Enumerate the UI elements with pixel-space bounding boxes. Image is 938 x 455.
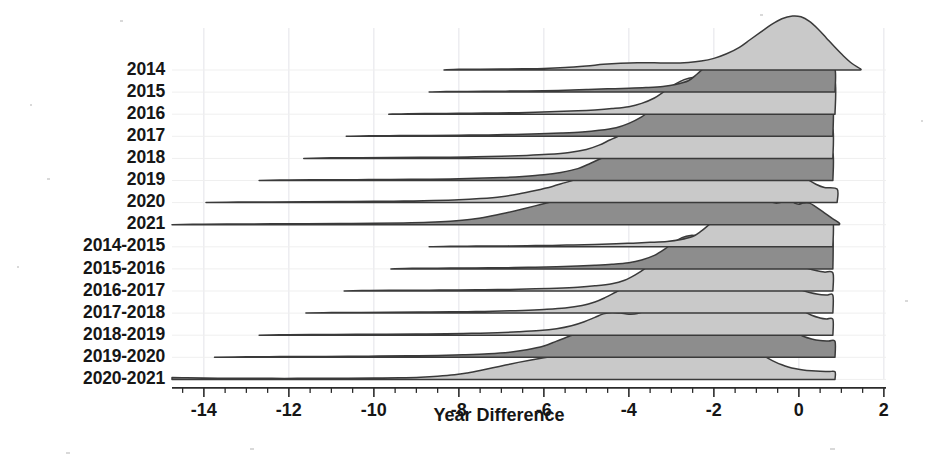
y-label-2018: 2018 <box>127 147 166 167</box>
y-label-2015-2016: 2015-2016 <box>83 258 165 278</box>
scan-speck <box>760 14 763 16</box>
scan-speck <box>921 120 923 122</box>
x-tick-label--4: -4 <box>621 400 637 420</box>
x-axis-title: Year Difference <box>433 405 564 425</box>
y-label-2016-2017: 2016-2017 <box>83 280 165 300</box>
scan-speck <box>120 20 123 22</box>
x-tick-label-2: 2 <box>879 400 889 420</box>
y-label-2014: 2014 <box>127 59 166 79</box>
ridgeline-chart-figure: 201420152016201720182019202020212014-201… <box>0 0 938 455</box>
scan-speck <box>250 448 254 450</box>
x-tick-label--12: -12 <box>276 400 302 420</box>
y-label-2014-2015: 2014-2015 <box>83 235 165 255</box>
y-label-2015: 2015 <box>127 81 166 101</box>
y-label-2017: 2017 <box>127 125 165 145</box>
y-label-2018-2019: 2018-2019 <box>83 324 165 344</box>
y-label-2019: 2019 <box>127 169 166 189</box>
y-label-2021: 2021 <box>127 213 166 233</box>
y-label-2020-2021: 2020-2021 <box>83 368 165 388</box>
scan-speck <box>830 448 835 450</box>
x-tick-label--2: -2 <box>706 400 722 420</box>
scan-speck <box>66 452 70 454</box>
scan-speck <box>47 178 50 180</box>
y-label-2020: 2020 <box>127 191 166 211</box>
scan-speck <box>30 104 32 106</box>
y-label-2017-2018: 2017-2018 <box>83 302 165 322</box>
scan-speck <box>905 300 908 302</box>
y-label-2019-2020: 2019-2020 <box>83 346 165 366</box>
x-tick-label--10: -10 <box>361 400 387 420</box>
x-tick-label-0: 0 <box>794 400 804 420</box>
ridgeline-plot-svg: 201420152016201720182019202020212014-201… <box>0 0 938 455</box>
scan-speck <box>17 266 19 268</box>
x-tick-label--14: -14 <box>191 400 217 420</box>
y-label-2016: 2016 <box>127 103 166 123</box>
